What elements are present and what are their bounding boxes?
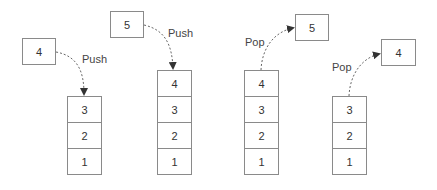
pop-arrow-2 [349, 54, 379, 96]
operation-label: Push [168, 27, 193, 39]
stack-cell: 1 [244, 148, 279, 175]
stack-cell: 2 [157, 122, 192, 149]
incoming-item-box: 4 [22, 38, 56, 65]
stack-cell: 4 [157, 70, 192, 97]
stack-cell: 3 [67, 96, 102, 123]
stack-cell: 1 [332, 148, 367, 175]
stack: 4 3 2 1 [157, 70, 192, 175]
stack-cell: 4 [244, 70, 279, 97]
stack: 3 2 1 [332, 96, 367, 175]
outgoing-item-box: 5 [295, 14, 329, 41]
item-value: 4 [395, 47, 401, 59]
push-arrow-1 [56, 52, 84, 94]
incoming-item-box: 5 [110, 11, 144, 38]
item-value: 5 [124, 19, 130, 31]
stack-cell: 3 [332, 96, 367, 123]
pop-arrow-1 [261, 28, 293, 70]
stack-cell: 3 [244, 96, 279, 123]
stack: 4 3 2 1 [244, 70, 279, 175]
operation-label: Push [82, 53, 107, 65]
stack-cell: 2 [67, 122, 102, 149]
stack-cell: 3 [157, 96, 192, 123]
arrows-layer [0, 0, 437, 190]
stack: 3 2 1 [67, 96, 102, 175]
item-value: 4 [36, 46, 42, 58]
outgoing-item-box: 4 [381, 39, 416, 66]
operation-label: Pop [245, 36, 265, 48]
stack-cell: 1 [157, 148, 192, 175]
operation-label: Pop [332, 61, 352, 73]
stack-cell: 2 [244, 122, 279, 149]
stack-cell: 1 [67, 148, 102, 175]
stack-cell: 2 [332, 122, 367, 149]
item-value: 5 [309, 22, 315, 34]
